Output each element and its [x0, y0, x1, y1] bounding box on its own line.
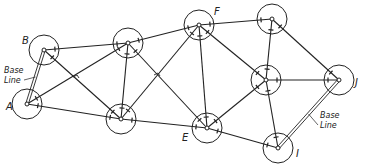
angle-tick: [132, 118, 133, 123]
edge-G-H: [266, 19, 272, 80]
station-point-I: [276, 146, 280, 150]
angle-tick: [37, 103, 38, 108]
base-line-label: Line: [320, 121, 337, 130]
station-label-I: I: [296, 148, 299, 159]
base-line-label: Line: [4, 76, 21, 85]
triangulation-diagram: BaseLineBaseLineABEFIJ: [0, 0, 365, 166]
base-line-label: Base: [4, 66, 24, 75]
label-leader: [309, 114, 319, 125]
station-point-D: [119, 117, 123, 121]
station-point-G: [270, 17, 274, 21]
edge-B-C: [44, 43, 128, 50]
base-line-label: Base: [320, 111, 340, 120]
edge-F-H: [199, 25, 266, 80]
base-line-A-B: [28, 50, 45, 104]
angle-tick: [110, 115, 111, 120]
station-point-C: [126, 41, 130, 45]
angle-tick: [188, 25, 189, 30]
edge-C-E: [128, 43, 207, 128]
station-label-F: F: [214, 6, 220, 17]
angle-tick: [274, 137, 279, 138]
station-label-A: A: [5, 101, 13, 112]
angle-tick: [138, 38, 139, 43]
station-point-J: [337, 78, 341, 82]
station-point-A: [25, 102, 29, 106]
angle-tick: [196, 124, 197, 129]
angle-tick: [265, 90, 270, 91]
network-canvas: BaseLineBaseLineABEFIJ: [0, 0, 365, 166]
station-point-E: [205, 126, 209, 130]
edge-H-I: [266, 80, 278, 148]
angle-tick: [267, 143, 268, 148]
angle-tick: [217, 129, 218, 134]
station-point-H: [264, 78, 268, 82]
edge-G-J: [272, 19, 339, 80]
station-point-B: [42, 48, 46, 52]
edge-D-F: [121, 25, 199, 119]
station-label-E: E: [182, 132, 189, 143]
station-point-F: [197, 23, 201, 27]
station-label-B: B: [22, 35, 29, 46]
